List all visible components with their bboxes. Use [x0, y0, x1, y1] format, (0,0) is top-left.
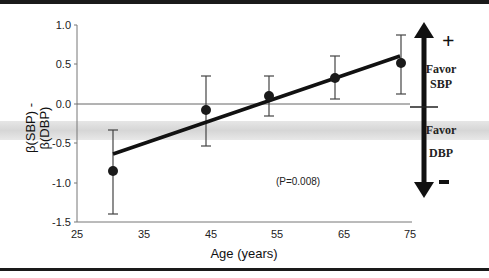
svg-text:0.5: 0.5: [56, 58, 71, 70]
favor-sbp-line2: SBP: [430, 77, 452, 91]
y-tick-labels: 1.0 0.5 0.0 -0.5 -1.0 -1.5: [52, 19, 71, 228]
svg-text:β(DBP): β(DBP): [37, 107, 52, 150]
error-bars: [108, 35, 406, 214]
svg-text:-1.0: -1.0: [52, 177, 71, 189]
svg-text:35: 35: [138, 228, 150, 240]
svg-text:0.0: 0.0: [56, 98, 71, 110]
plus-sign: +: [442, 28, 455, 53]
chart: 1.0 0.5 0.0 -0.5 -1.0 -1.5 25 35 45 55 6…: [0, 0, 489, 278]
x-tick-labels: 25 35 45 55 65 75: [71, 228, 416, 240]
bottom-border: [0, 268, 489, 271]
x-axis-title: Age (years): [210, 246, 277, 261]
p-value-annotation: (P=0.008): [276, 176, 320, 187]
regression-line: [113, 56, 400, 154]
arrow-up-icon: [414, 22, 434, 38]
y-axis-title: β(SBP) - β(DBP): [23, 103, 52, 153]
svg-text:-1.5: -1.5: [52, 216, 71, 228]
svg-text:1.0: 1.0: [56, 19, 71, 31]
svg-text:45: 45: [205, 228, 217, 240]
svg-text:-0.5: -0.5: [52, 137, 71, 149]
data-points: [108, 58, 406, 176]
svg-text:65: 65: [338, 228, 350, 240]
arrow-down-icon: [414, 182, 434, 198]
favor-arrow: [410, 22, 438, 198]
svg-text:β(SBP) -: β(SBP) -: [23, 103, 38, 153]
favor-dbp-line1: Favor: [426, 123, 457, 137]
svg-text:25: 25: [71, 228, 83, 240]
favor-sbp-line1: Favor: [426, 62, 457, 76]
favor-dbp-line2: DBP: [429, 146, 453, 160]
minus-sign: [439, 180, 449, 184]
svg-text:55: 55: [271, 228, 283, 240]
svg-text:75: 75: [404, 228, 416, 240]
